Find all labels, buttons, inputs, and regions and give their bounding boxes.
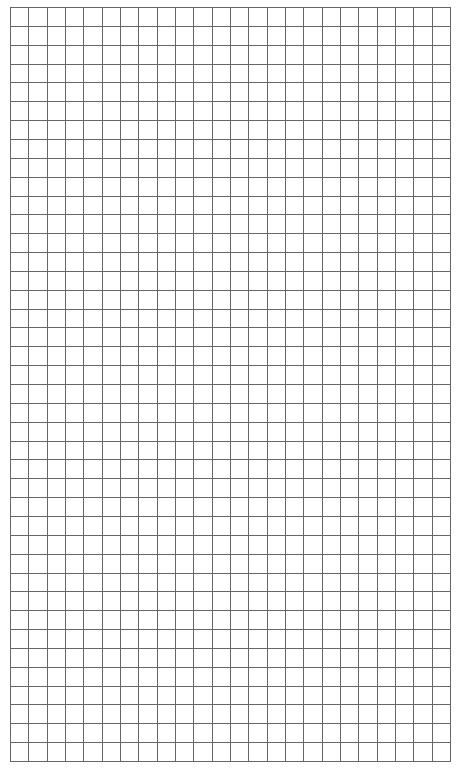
graph-paper-grid	[10, 7, 451, 762]
grid-lines	[10, 7, 451, 762]
